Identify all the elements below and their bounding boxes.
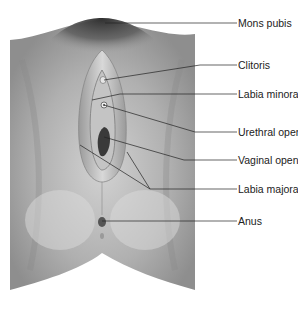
anus xyxy=(98,217,106,227)
label-vaginal-opening: Vaginal opening xyxy=(238,154,298,166)
label-urethral-opening: Urethral opening xyxy=(238,126,298,138)
label-mons-pubis: Mons pubis xyxy=(238,17,292,29)
label-labia-majora: Labia majora xyxy=(238,183,298,195)
label-labia-minora: Labia minora xyxy=(238,88,298,100)
label-anus: Anus xyxy=(238,215,262,227)
label-clitoris: Clitoris xyxy=(238,59,270,71)
